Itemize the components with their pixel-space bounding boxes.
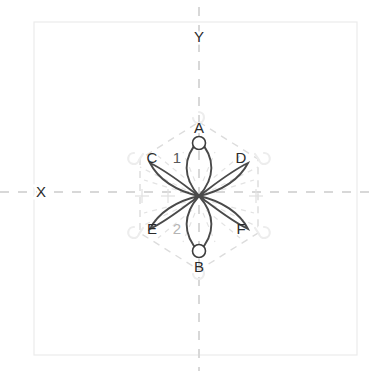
- y-axis-label-text: Y: [194, 28, 204, 45]
- index-label-2: 2: [173, 220, 181, 237]
- hook-icon-upper-right: [255, 153, 270, 164]
- vertex-label-f: F: [236, 220, 245, 237]
- vertex-label-c: C: [147, 149, 158, 166]
- molecular-orbital-diagram: X X Y Y: [0, 0, 378, 377]
- hook-icon-lower-right: [255, 227, 270, 238]
- plot-frame: [34, 22, 357, 355]
- vertex-label-a: A: [194, 119, 204, 136]
- atom-node-a: [193, 137, 206, 150]
- atom-node-b: [193, 245, 206, 258]
- index-label-1: 1: [173, 149, 181, 166]
- vertex-label-b: B: [194, 258, 204, 275]
- x-axis-label-text: X: [36, 183, 46, 200]
- vertex-label-e: E: [147, 220, 157, 237]
- figure-canvas: X X Y Y: [0, 0, 378, 377]
- orbital-lobe-c: [150, 163, 199, 196]
- vertex-label-d: D: [236, 149, 247, 166]
- hook-icon-upper-left: [128, 153, 143, 164]
- hook-icon-lower-left: [128, 227, 143, 238]
